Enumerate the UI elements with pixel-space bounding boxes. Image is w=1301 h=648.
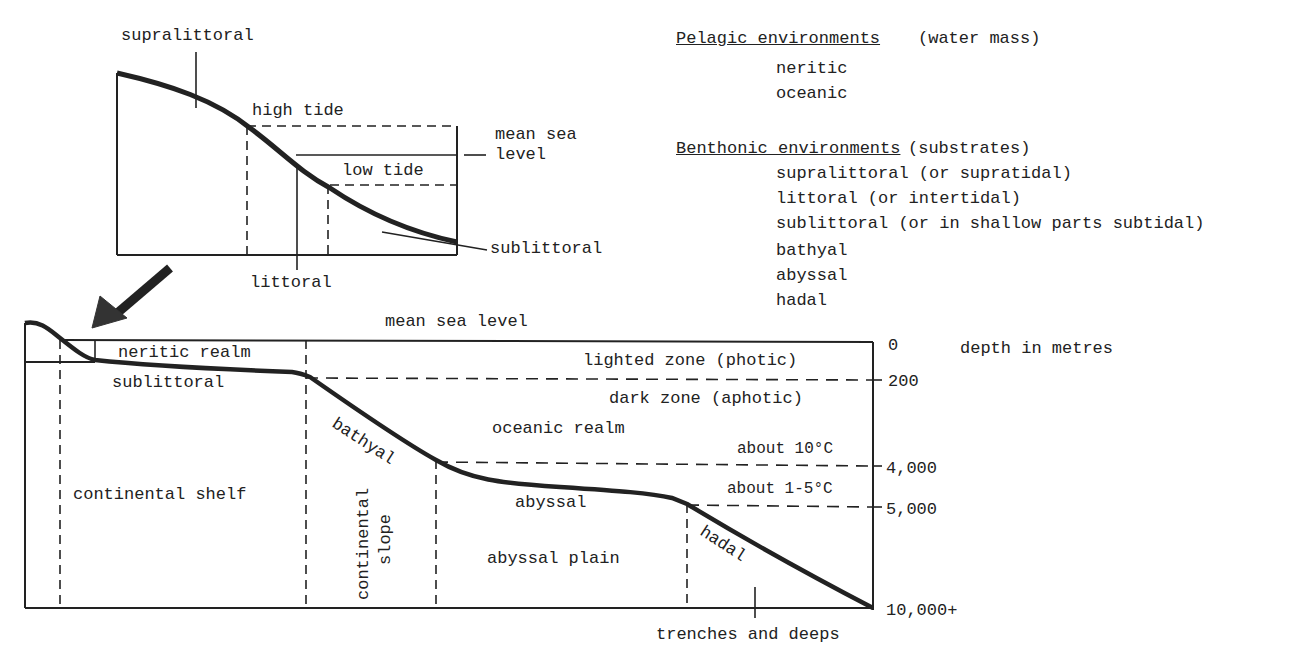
label-abyssal: abyssal: [515, 494, 586, 511]
benthonic-item: abyssal: [776, 267, 847, 284]
pelagic-item: oceanic: [776, 85, 847, 102]
benthonic-item: littoral (or intertidal): [776, 190, 1021, 207]
label-mean-sea-level: mean sea level: [385, 313, 528, 330]
label-trenches-and-deeps: trenches and deeps: [656, 626, 840, 643]
label-dark-zone: dark zone (aphotic): [609, 390, 803, 407]
benthonic-heading: Benthonic environments: [676, 140, 900, 157]
depth-tick: 200: [888, 373, 919, 390]
label-continental-shelf: continental shelf: [73, 486, 246, 503]
label-continental-slope-1: continental: [355, 488, 372, 600]
pelagic-qualifier: (water mass): [918, 30, 1040, 47]
benthonic-item: supralittoral (or supratidal): [776, 165, 1072, 182]
label-low-tide: low tide: [342, 162, 424, 179]
label-lighted-zone: lighted zone (photic): [583, 352, 797, 369]
diagram-lines: [0, 0, 1301, 648]
label-neritic-realm: neritic realm: [118, 344, 251, 361]
benthonic-item: bathyal: [776, 242, 847, 259]
benthonic-qualifier: (substrates): [908, 140, 1030, 157]
label-supralittoral: supralittoral: [121, 27, 254, 44]
depth-axis-title: depth in metres: [960, 340, 1113, 357]
arrow-icon: [92, 268, 170, 328]
depth-tick: 10,000+: [886, 602, 957, 619]
depth-tick: 4,000: [886, 460, 937, 477]
label-continental-slope-2: slope: [377, 514, 394, 565]
label-littoral: littoral: [250, 274, 332, 291]
label-temp-10: about 10°C: [737, 441, 833, 457]
label-oceanic-realm: oceanic realm: [492, 420, 625, 437]
benthonic-item: sublittoral (or in shallow parts subtida…: [776, 215, 1204, 232]
pelagic-item: neritic: [776, 60, 847, 77]
pelagic-heading: Pelagic environments: [676, 30, 880, 47]
label-abyssal-plain: abyssal plain: [487, 550, 620, 567]
label-temp-1-5: about 1-5°C: [727, 481, 833, 497]
label-mean-sea-level-2: level: [495, 146, 546, 163]
label-sublittoral-inset: sublittoral: [490, 240, 602, 257]
label-mean-sea-level-1: mean sea: [495, 126, 577, 143]
depth-tick: 5,000: [886, 501, 937, 518]
benthonic-item: hadal: [776, 292, 827, 309]
inset-diagram-lines: [117, 52, 487, 270]
label-sublittoral: sublittoral: [112, 374, 224, 391]
depth-tick: 0: [888, 337, 898, 354]
label-high-tide: high tide: [252, 102, 344, 119]
